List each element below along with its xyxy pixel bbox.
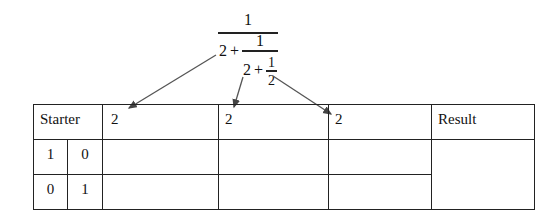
cell-row2-col3 [329,175,432,210]
cell-row2-b: 1 [68,175,103,210]
header-col3: 2 [329,105,432,140]
cell-row1-col2 [219,140,329,175]
cell-row1-b: 0 [68,140,103,175]
cell-row1-a: 1 [34,140,68,175]
cell-row1-col3 [329,140,432,175]
table-row: 1 0 [34,140,535,175]
header-col1: 2 [103,105,219,140]
header-result: Result [432,105,535,140]
cell-row2-col2 [219,175,329,210]
cell-row2-col1 [103,175,219,210]
cell-result [432,140,535,210]
header-col2: 2 [219,105,329,140]
arrow-to-col1 [129,55,216,108]
arrow-to-col2 [234,77,243,107]
header-starter: Starter [34,105,103,140]
cell-row1-col1 [103,140,219,175]
convergent-table: Starter 2 2 2 Result 1 0 0 1 [33,104,535,210]
cell-row2-a: 0 [34,175,68,210]
